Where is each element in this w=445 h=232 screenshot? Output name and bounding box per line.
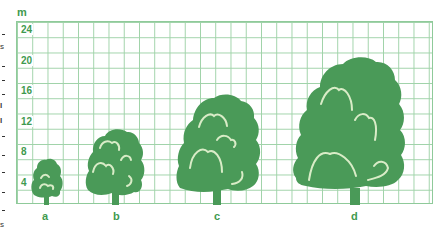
tree-label-d: d bbox=[351, 210, 358, 222]
tree-a-icon bbox=[31, 159, 62, 205]
tree-label-a: a bbox=[42, 210, 48, 222]
tree-c-icon bbox=[177, 94, 261, 205]
tree-d-icon bbox=[293, 57, 405, 205]
tree-label-b: b bbox=[113, 210, 120, 222]
trees-illustration bbox=[0, 0, 445, 232]
tree-label-c: c bbox=[214, 210, 220, 222]
